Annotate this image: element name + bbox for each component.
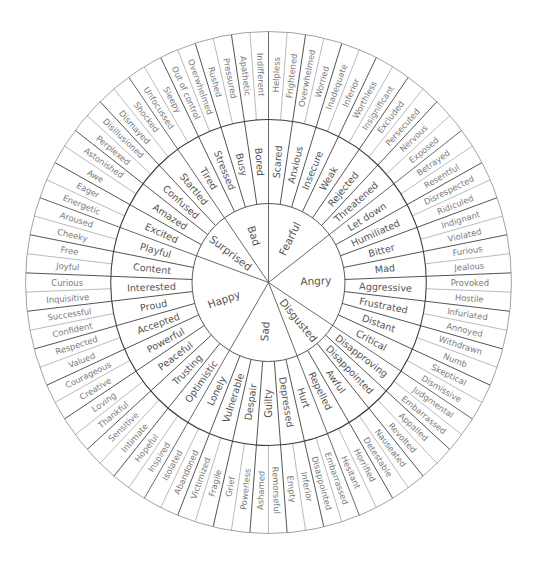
feelings-wheel: FearfulScaredHelplessFrightenedAnxiousOv… <box>0 0 540 564</box>
core-emotion-surprised: Surprised <box>207 233 254 273</box>
core-emotion-bad: Bad <box>245 224 263 247</box>
outer-emotion-joyful: Joyful <box>55 261 80 273</box>
outer-emotion-overwhelmed: Overwhelmed <box>296 49 317 108</box>
outer-divider <box>378 400 437 463</box>
core-emotion-disgusted: Disgusted <box>277 296 320 344</box>
outer-divider <box>87 116 151 175</box>
outer-divider <box>26 289 111 292</box>
outer-emotion-powerless: Powerless <box>238 468 253 510</box>
core-emotion-happy: Happy <box>206 288 242 311</box>
middle-emotion-busy: Busy <box>234 152 250 178</box>
outer-emotion-grief: Grief <box>223 475 237 498</box>
core-emotion-fearful: Fearful <box>276 220 303 258</box>
core-emotion-angry: Angry <box>300 274 331 287</box>
outer-emotion-provoked: Provoked <box>451 278 489 288</box>
wheel-root: FearfulScaredHelplessFrightenedAnxiousOv… <box>26 32 512 534</box>
outer-emotion-helpless: Helpless <box>271 57 282 93</box>
outer-emotion-free: Free <box>60 244 79 257</box>
outer-emotion-hostile: Hostile <box>454 292 484 304</box>
outer-emotion-remorseful: Remorseful <box>270 466 282 514</box>
outer-emotion-curious: Curious <box>51 278 83 288</box>
middle-emotion-interested: Interested <box>127 281 176 294</box>
outer-emotion-inquisitive: Inquisitive <box>46 292 90 305</box>
core-emotion-sad: Sad <box>258 321 271 342</box>
middle-emotion-guilty: Guilty <box>263 389 274 418</box>
middle-emotion-bored: Bored <box>253 147 266 176</box>
outer-emotion-furious: Furious <box>452 243 483 257</box>
outer-divider <box>386 116 450 175</box>
outer-emotion-violated: Violated <box>447 226 483 244</box>
middle-emotion-depressed: Depressed <box>277 376 296 428</box>
middle-emotion-scared: Scared <box>271 145 284 179</box>
middle-emotion-content: Content <box>133 261 172 276</box>
middle-emotion-mad: Mad <box>374 262 395 275</box>
outer-emotion-ashamed: Ashamed <box>255 471 266 511</box>
outer-emotion-indifferent: Indifferent <box>255 53 267 97</box>
middle-emotion-proud: Proud <box>139 298 168 314</box>
middle-emotion-hurt: Hurt <box>295 386 312 410</box>
outer-emotion-apathetic: Apathetic <box>238 55 253 96</box>
outer-divider <box>100 400 159 463</box>
outer-divider <box>426 289 511 292</box>
middle-emotion-aggressive: Aggressive <box>359 281 412 294</box>
divider-lines <box>26 32 512 534</box>
outer-emotion-empty: Empty <box>285 475 298 503</box>
outer-emotion-infuriated: Infuriated <box>447 306 489 322</box>
outer-emotion-jealous: Jealous <box>453 260 485 272</box>
outer-emotion-awe: Awe <box>85 167 105 184</box>
